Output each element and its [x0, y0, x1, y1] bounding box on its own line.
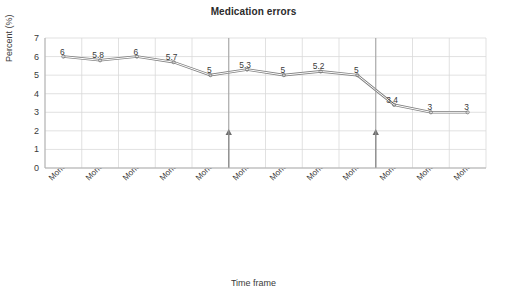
data-point-label: 6: [60, 47, 65, 57]
plot-area: [0, 0, 507, 300]
medication-errors-chart: Medication errors Percent (%) Time frame…: [0, 0, 507, 300]
data-point-label: 3: [428, 102, 433, 112]
data-point-label: 3.4: [386, 95, 398, 105]
data-point-label: 5.2: [313, 61, 325, 71]
data-point-label: 5: [207, 65, 212, 75]
data-point-label: 5.7: [166, 52, 178, 62]
data-point-label: 6: [134, 47, 139, 57]
data-point-label: 5: [281, 65, 286, 75]
data-point-label: 3: [464, 102, 469, 112]
data-point-label: 5: [354, 65, 359, 75]
data-point-label: 5.8: [92, 50, 104, 60]
data-point-label: 5.3: [239, 60, 251, 70]
